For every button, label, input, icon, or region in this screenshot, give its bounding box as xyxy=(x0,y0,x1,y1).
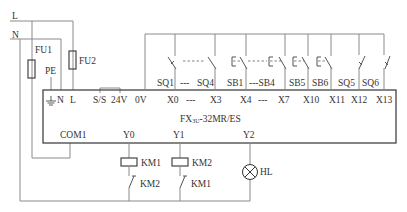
terminal-dash1: --- xyxy=(186,95,196,105)
sb1-pushbutton-icon xyxy=(232,57,236,66)
terminal-x4: X4 xyxy=(240,95,252,105)
coil-km1 xyxy=(121,158,137,166)
terminal-0v: 0V xyxy=(135,95,147,105)
label-sb1: SB1 xyxy=(227,78,244,88)
terminal-y0: Y0 xyxy=(123,130,135,140)
terminal-n: N xyxy=(57,95,64,105)
terminal-y1: Y1 xyxy=(173,130,185,140)
plc-model: FX3U-32MR/ES xyxy=(180,114,241,124)
terminal-x7: X7 xyxy=(278,95,290,105)
terminal-x3: X3 xyxy=(210,95,222,105)
terminal-com1: COM1 xyxy=(60,130,87,140)
label-sq1: SQ1 xyxy=(157,78,174,88)
label-lamp-hl: HL xyxy=(260,167,273,177)
label-sq4: SQ4 xyxy=(197,78,214,88)
label-coil-km2: KM2 xyxy=(192,158,212,168)
fu2-label: FU2 xyxy=(79,56,96,66)
ground-icon xyxy=(46,96,56,105)
line-wire xyxy=(10,21,73,90)
terminal-l: L xyxy=(70,95,76,105)
terminal-ss: S/S xyxy=(93,95,106,105)
label-sb5: SB5 xyxy=(289,78,306,88)
lamp-icon xyxy=(243,165,258,180)
interlock-km1-contact xyxy=(180,176,185,188)
label-sb6: SB6 xyxy=(312,78,329,88)
fu1-label: FU1 xyxy=(35,45,52,55)
terminal-x0: X0 xyxy=(167,95,179,105)
label-interlock-km1: KM1 xyxy=(191,179,211,189)
sb6-pushbutton-icon xyxy=(317,57,321,66)
sb4-pushbutton-icon xyxy=(269,57,273,66)
label-interlock-km2: KM2 xyxy=(140,179,160,189)
terminal-y2: Y2 xyxy=(243,130,255,140)
wiring-diagram: L N FU1 FU2 PE N L S/S 24V 0V X0 --- X3 … xyxy=(0,0,407,212)
line-label: L xyxy=(12,11,18,21)
terminal-x11: X11 xyxy=(329,95,345,105)
label-sq5: SQ5 xyxy=(338,78,355,88)
terminal-x10: X10 xyxy=(303,95,320,105)
label-sq6: SQ6 xyxy=(362,78,379,88)
label-coil-km1: KM1 xyxy=(141,158,161,168)
terminal-24v: 24V xyxy=(111,95,128,105)
sb5-pushbutton-icon xyxy=(293,57,297,66)
terminal-x13: X13 xyxy=(376,95,393,105)
label-sb4: ---SB4 xyxy=(249,78,275,88)
terminal-dash2: --- xyxy=(258,95,268,105)
terminal-x12: X12 xyxy=(351,95,368,105)
interlock-km2-contact xyxy=(129,176,134,188)
pe-label: PE xyxy=(45,66,56,76)
coil-km2 xyxy=(172,158,188,166)
label-dash: --- xyxy=(180,78,190,88)
